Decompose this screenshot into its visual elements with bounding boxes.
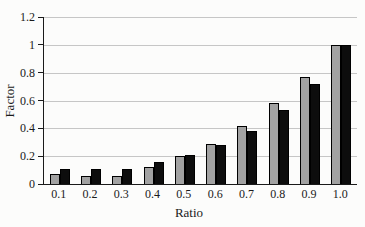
x-tick-label: 0.5 xyxy=(168,188,199,200)
bar-gray-bars xyxy=(206,144,216,184)
y-tick-label: 0.8 xyxy=(20,67,35,79)
y-tick-label: 0.4 xyxy=(20,122,35,134)
y-axis-tick-labels: 00.20.40.60.811.2 xyxy=(0,17,35,184)
bars xyxy=(44,17,357,184)
x-axis-title: Ratio xyxy=(43,205,335,221)
bar-group xyxy=(232,17,263,184)
bar-black-bars xyxy=(310,84,320,184)
bar-group xyxy=(107,17,138,184)
x-tick-label: 0.2 xyxy=(74,188,105,200)
bar-group xyxy=(44,17,75,184)
bar-gray-bars xyxy=(300,77,310,184)
y-tick-label: 1.2 xyxy=(20,11,35,23)
bar-gray-bars xyxy=(144,167,154,184)
bar-group xyxy=(75,17,106,184)
bar-group xyxy=(263,17,294,184)
bar-black-bars xyxy=(279,110,289,184)
bar-gray-bars xyxy=(175,156,185,184)
bar-black-bars xyxy=(91,169,101,184)
bar-gray-bars xyxy=(50,174,60,184)
y-tick-label: 1 xyxy=(29,39,35,51)
x-tick-label: 1.0 xyxy=(325,188,356,200)
bar-group xyxy=(326,17,357,184)
bar-black-bars xyxy=(154,162,164,184)
plot-area xyxy=(43,17,357,185)
x-tick-label: 0.4 xyxy=(137,188,168,200)
bar-group xyxy=(294,17,325,184)
y-tick-label: 0.2 xyxy=(20,150,35,162)
bar-chart-figure: Factor 00.20.40.60.811.2 0.10.20.30.40.5… xyxy=(0,0,365,227)
bar-group xyxy=(169,17,200,184)
bar-gray-bars xyxy=(112,176,122,184)
x-tick-label: 0.1 xyxy=(43,188,74,200)
x-axis-title-text: Ratio xyxy=(175,205,203,220)
bar-black-bars xyxy=(341,45,351,184)
bar-black-bars xyxy=(185,155,195,184)
bar-black-bars xyxy=(247,131,257,184)
bar-gray-bars xyxy=(237,126,247,184)
x-axis-tick-labels: 0.10.20.30.40.50.60.70.80.91.0 xyxy=(43,188,356,200)
x-tick-label: 0.8 xyxy=(262,188,293,200)
bar-black-bars xyxy=(122,169,132,184)
x-tick-label: 0.9 xyxy=(293,188,324,200)
bar-gray-bars xyxy=(269,103,279,184)
x-tick-label: 0.6 xyxy=(199,188,230,200)
y-tick-label: 0.6 xyxy=(20,95,35,107)
x-tick-label: 0.7 xyxy=(231,188,262,200)
y-tick-label: 0 xyxy=(29,178,35,190)
bar-group xyxy=(138,17,169,184)
bar-group xyxy=(200,17,231,184)
bar-gray-bars xyxy=(81,176,91,184)
x-tick-label: 0.3 xyxy=(106,188,137,200)
bar-black-bars xyxy=(216,145,226,184)
bar-gray-bars xyxy=(331,45,341,184)
bar-black-bars xyxy=(60,169,70,184)
